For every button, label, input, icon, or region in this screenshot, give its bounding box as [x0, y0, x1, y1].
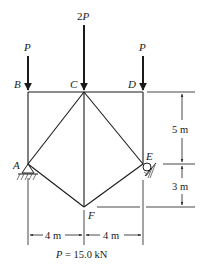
- node-label-E: E: [145, 150, 153, 162]
- member-AF: [28, 164, 84, 207]
- load-label-C-var: P: [82, 10, 90, 22]
- node-label-B: B: [14, 78, 21, 90]
- dimension-lower-height: 3 m: [172, 181, 188, 192]
- member-CE: [84, 92, 143, 164]
- roller-support-icon: [143, 163, 156, 178]
- node-label-C: C: [70, 78, 78, 90]
- dimension-left-span: 4 m: [45, 230, 61, 241]
- caption-value: = 15.0 kN: [62, 249, 107, 260]
- member-AC: [28, 92, 84, 164]
- load-arrows: [28, 25, 143, 90]
- load-label-B: P: [23, 41, 31, 53]
- pin-support-icon: [17, 164, 38, 180]
- node-label-D: D: [127, 78, 136, 90]
- member-EF: [84, 164, 143, 207]
- load-value-caption: P = 15.0 kN: [55, 249, 108, 260]
- truss-members: [28, 92, 143, 207]
- dimension-upper-height: 5 m: [172, 124, 188, 135]
- truss-diagram: P 2P P B C D A E F 5 m 3 m: [0, 0, 209, 272]
- node-label-A: A: [12, 159, 20, 171]
- load-label-D: P: [138, 41, 146, 53]
- dimension-right-span: 4 m: [103, 230, 119, 241]
- load-label-C: 2P: [77, 10, 90, 22]
- node-label-F: F: [87, 209, 95, 221]
